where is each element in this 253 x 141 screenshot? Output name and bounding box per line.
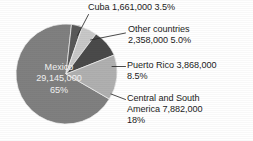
pie-slices — [16, 24, 117, 124]
leader-line-central-and-south-america — [111, 94, 126, 100]
pie-chart-canvas — [0, 0, 253, 141]
pie-chart-figure: Mexico 29,145,000 65% Cuba 1,661,000 3.5… — [0, 0, 253, 141]
